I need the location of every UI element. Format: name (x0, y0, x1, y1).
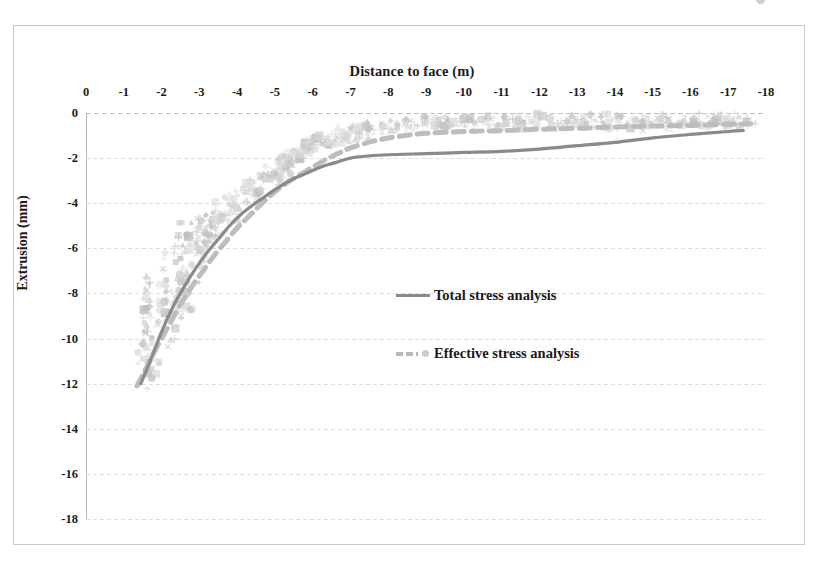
y-tick-label: 0 (72, 106, 78, 121)
chart-legend: Total stress analysis Effective stress a… (396, 283, 696, 373)
y-tick-label: -18 (61, 512, 78, 527)
gridline (86, 519, 766, 520)
y-tick-label: -2 (68, 151, 78, 166)
scatter-point (757, 0, 765, 4)
x-tick-label: -2 (156, 85, 166, 100)
scatter-point (756, 0, 764, 4)
x-tick-label: -15 (644, 85, 661, 100)
y-tick-label: -10 (61, 331, 78, 346)
x-axis-tick-labels: 0-1-2-3-4-5-6-7-8-9-10-11-12-13-14-15-16… (0, 85, 824, 103)
gridline (86, 474, 766, 475)
x-tick-label: -1 (119, 85, 129, 100)
x-tick-label: -8 (383, 85, 393, 100)
x-tick-label: -11 (494, 85, 510, 100)
y-tick-label: -12 (61, 376, 78, 391)
gridline (86, 384, 766, 385)
x-tick-label: -9 (421, 85, 431, 100)
y-tick-label: -4 (68, 196, 78, 211)
dashed-line-marker-swatch-icon (396, 346, 430, 360)
y-tick-label: -16 (61, 466, 78, 481)
x-tick-label: -16 (682, 85, 699, 100)
x-tick-label: -18 (758, 85, 775, 100)
gridline (86, 429, 766, 430)
legend-label-effective-stress: Effective stress analysis (434, 345, 580, 362)
y-tick-label: -6 (68, 241, 78, 256)
x-tick-label: -5 (270, 85, 280, 100)
legend-item-total-stress: Total stress analysis (396, 283, 556, 307)
x-tick-label: -13 (569, 85, 586, 100)
y-axis-title: Extrusion (mm) (15, 158, 31, 328)
gridline (86, 248, 766, 249)
chart-title: Distance to face (m) (0, 63, 824, 80)
legend-label-total-stress: Total stress analysis (434, 287, 556, 304)
x-tick-label: -4 (232, 85, 242, 100)
x-tick-label: 0 (83, 85, 89, 100)
gridline (86, 203, 766, 204)
x-tick-label: -7 (345, 85, 355, 100)
x-tick-label: -3 (194, 85, 204, 100)
gridline (86, 113, 766, 114)
y-tick-label: -8 (68, 286, 78, 301)
x-tick-label: -17 (720, 85, 737, 100)
x-tick-label: -14 (607, 85, 624, 100)
y-tick-label: -14 (61, 421, 78, 436)
x-tick-label: -12 (531, 85, 548, 100)
x-tick-label: -10 (455, 85, 472, 100)
y-axis-tick-labels: 0-2-4-6-8-10-12-14-16-18 (0, 113, 78, 519)
legend-item-effective-stress: Effective stress analysis (396, 341, 580, 365)
x-tick-label: -6 (307, 85, 317, 100)
chart-figure: Distance to face (m) 0-1-2-3-4-5-6-7-8-9… (0, 0, 824, 581)
solid-line-swatch-icon (396, 288, 430, 302)
gridline (86, 158, 766, 159)
